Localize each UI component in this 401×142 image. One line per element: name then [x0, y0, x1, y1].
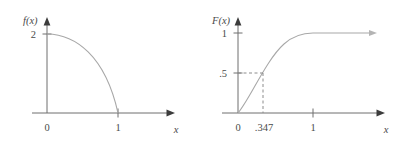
y-axis-arrowhead — [235, 17, 242, 26]
x-tick-label-1: 1 — [310, 122, 315, 133]
y-axis-label: f(x) — [23, 15, 38, 27]
density-curve — [47, 34, 118, 113]
cdf-tail-arrowhead — [369, 30, 377, 36]
y-axis-label: F(x) — [211, 15, 231, 27]
x-axis-label: x — [173, 124, 179, 135]
figure-pair: f(x) 2 0 1 x — [0, 0, 401, 142]
x-tick-label-0: 0 — [44, 122, 49, 133]
cdf-plot-panel: F(x) 1 .5 0 .347 1 x — [200, 0, 401, 142]
cdf-curve — [238, 33, 370, 113]
x-tick-label-347: .347 — [255, 122, 273, 133]
y-axis-arrowhead — [44, 17, 51, 26]
x-tick-label-0: 0 — [235, 122, 240, 133]
density-plot-panel: f(x) 2 0 1 x — [0, 0, 200, 142]
y-tick-label-half: .5 — [219, 68, 227, 79]
x-axis-label: x — [383, 124, 389, 135]
y-tick-label-2: 2 — [31, 29, 36, 40]
x-axis-arrowhead — [167, 110, 176, 117]
x-tick-label-1: 1 — [115, 122, 120, 133]
y-tick-label-1: 1 — [222, 28, 227, 39]
x-axis-arrowhead — [377, 110, 386, 117]
